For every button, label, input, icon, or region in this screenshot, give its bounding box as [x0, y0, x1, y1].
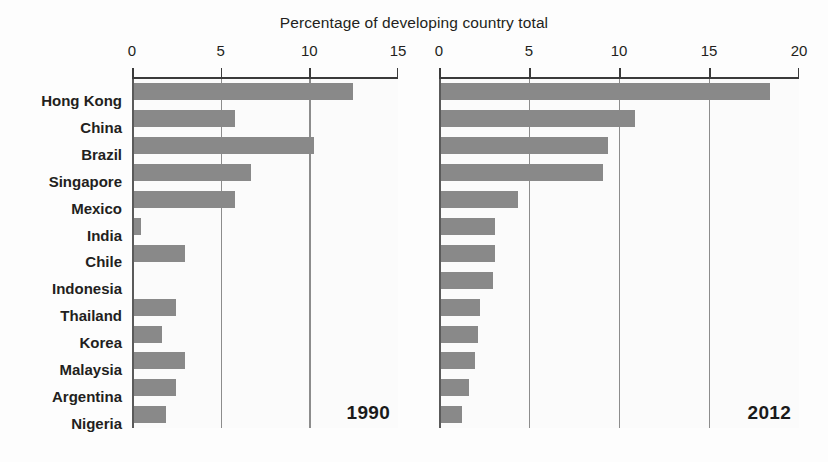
bar-2012-mexico [441, 191, 518, 208]
bar-1990-thailand [134, 299, 177, 316]
bar-2012-malaysia [441, 352, 475, 369]
bar-1990-nigeria [134, 406, 166, 423]
tick-mark-20 [798, 68, 800, 77]
x-axis-tick-marks [439, 68, 799, 77]
bar-2012-thailand [441, 299, 481, 316]
gridline-10 [309, 79, 310, 429]
category-label-mexico: Mexico [71, 196, 122, 223]
bar-1990-china [134, 110, 235, 127]
panel-1990: 0510151990 [132, 42, 398, 428]
tick-mark-10 [619, 68, 621, 77]
x-tick-label-0: 0 [435, 42, 443, 59]
bar-2012-chile [441, 245, 495, 262]
bar-1990-india [134, 218, 141, 235]
x-axis-tick-labels: 051015 [132, 42, 398, 68]
x-tick-label-15: 15 [390, 42, 407, 59]
bar-2012-korea [441, 326, 479, 343]
category-label-china: China [80, 115, 122, 142]
chart-title: Percentage of developing country total [0, 14, 828, 32]
tick-mark-0 [439, 68, 441, 77]
category-label-korea: Korea [79, 330, 122, 357]
chart-root: Percentage of developing country total H… [0, 0, 828, 462]
gridline-5 [529, 79, 530, 429]
bar-2012-india [441, 218, 495, 235]
tick-mark-10 [309, 68, 311, 77]
category-label-nigeria: Nigeria [71, 411, 122, 438]
gridline-5 [221, 79, 222, 429]
plot-area-1990: 1990 [132, 79, 398, 429]
category-label-argentina: Argentina [52, 384, 122, 411]
bar-2012-indonesia [441, 272, 493, 289]
x-tick-label-5: 5 [525, 42, 533, 59]
bar-2012-argentina [441, 379, 470, 396]
category-label-brazil: Brazil [81, 142, 122, 169]
tick-mark-15 [397, 68, 399, 77]
x-tick-label-15: 15 [701, 42, 718, 59]
x-tick-label-20: 20 [791, 42, 808, 59]
x-tick-label-10: 10 [611, 42, 628, 59]
x-axis-tick-marks [132, 68, 398, 77]
category-label-indonesia: Indonesia [52, 276, 122, 303]
category-label-singapore: Singapore [49, 169, 122, 196]
gridline-10 [619, 79, 620, 429]
tick-mark-5 [221, 68, 223, 77]
x-tick-label-0: 0 [128, 42, 136, 59]
category-label-india: India [87, 223, 122, 250]
x-tick-label-10: 10 [301, 42, 318, 59]
plot-area-2012: 2012 [439, 79, 799, 429]
tick-mark-0 [132, 68, 134, 77]
category-label-hong-kong: Hong Kong [41, 88, 122, 115]
bar-1990-singapore [134, 164, 251, 181]
bar-1990-argentina [134, 379, 177, 396]
category-label-chile: Chile [85, 249, 122, 276]
year-label-2012: 2012 [748, 402, 791, 424]
tick-mark-5 [529, 68, 531, 77]
panel-2012: 051015202012 [439, 42, 799, 428]
category-labels-column: Hong KongChinaBrazilSingaporeMexicoIndia… [0, 88, 128, 438]
bar-1990-hong-kong [134, 83, 354, 100]
bar-1990-malaysia [134, 352, 185, 369]
x-tick-label-5: 5 [216, 42, 224, 59]
gridline-15 [709, 79, 710, 429]
year-label-1990: 1990 [347, 402, 390, 424]
bar-2012-hong-kong [441, 83, 770, 100]
bar-1990-chile [134, 245, 185, 262]
bar-1990-brazil [134, 137, 315, 154]
x-axis-tick-labels: 05101520 [439, 42, 799, 68]
tick-mark-15 [709, 68, 711, 77]
bar-2012-china [441, 110, 635, 127]
bar-2012-nigeria [441, 406, 463, 423]
category-label-thailand: Thailand [60, 303, 122, 330]
bar-2012-brazil [441, 137, 608, 154]
category-label-malaysia: Malaysia [59, 357, 122, 384]
bar-2012-singapore [441, 164, 603, 181]
bar-1990-mexico [134, 191, 235, 208]
bar-1990-korea [134, 326, 162, 343]
